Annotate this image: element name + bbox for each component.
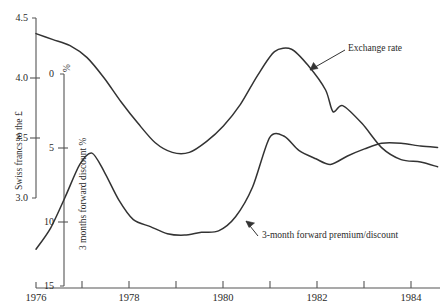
x-axis-tick-label: 1976 (12, 292, 60, 303)
annotation-forward-premium: 3-month forward premium/discount (262, 230, 398, 240)
secondary-axis (58, 74, 68, 286)
annotation-exchange-rate: Exchange rate (348, 43, 402, 53)
x-axis-tick-label: 1978 (105, 292, 153, 303)
bottom-axis (36, 281, 440, 288)
x-axis-tick-label: 1980 (199, 292, 247, 303)
y2-axis-unit-label: % (62, 64, 72, 72)
left-axis (30, 18, 40, 198)
y2-axis-title: 3 months forward discount % (78, 138, 88, 250)
y-axis-tick-label: 4.5 (2, 12, 28, 23)
series-line-exchange-rate (36, 34, 438, 167)
y2-axis-tick-label: 5 (32, 142, 54, 153)
y2-axis-tick-label: 15 (32, 280, 54, 291)
y2-axis-tick-label: 0 (32, 68, 54, 79)
y2-axis-tick-label: 10 (32, 216, 54, 227)
x-axis-tick-label: 1982 (293, 292, 341, 303)
annotation-arrow-forward-premium (246, 221, 258, 236)
y-axis-tick-label: 3.0 (2, 192, 28, 203)
x-axis-tick-label: 1984 (387, 292, 435, 303)
annotation-arrow-exchange-rate (310, 50, 345, 70)
y-axis-title: Swiss francs to the £ (14, 111, 24, 190)
chart-figure: 4.5 4.0 3.5 3.0 Swiss francs to the £ 0 … (0, 0, 444, 308)
y-axis-tick-label: 4.0 (2, 72, 28, 83)
